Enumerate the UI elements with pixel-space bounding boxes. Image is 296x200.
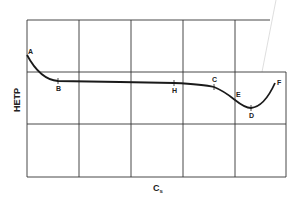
y-axis-label: HETP xyxy=(12,88,22,112)
faint-diagonal-line xyxy=(262,0,276,72)
hetp-curve xyxy=(27,55,275,108)
x-axis-label: Cs xyxy=(153,183,164,194)
point-label-f: F xyxy=(277,79,282,86)
grid xyxy=(27,20,286,177)
point-label-a: A xyxy=(28,48,33,55)
point-label-b: B xyxy=(56,85,61,92)
point-label-c: C xyxy=(212,76,217,83)
point-label-d: D xyxy=(249,112,254,119)
x-axis-label-sub: s xyxy=(160,188,164,194)
point-label-e: E xyxy=(236,91,241,98)
point-label-h: H xyxy=(172,87,177,94)
hetp-diagram: A B H C E D F HETP Cs xyxy=(0,0,296,200)
